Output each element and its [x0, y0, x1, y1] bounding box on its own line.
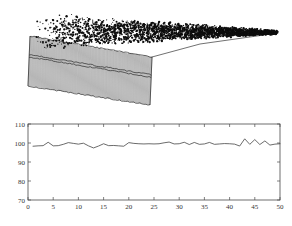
noise-speckle	[126, 26, 127, 27]
noise-speckle	[39, 29, 41, 31]
noise-speckle	[93, 29, 94, 30]
noise-speckle	[97, 32, 98, 33]
line-plot-svg: 05101520253035404550708090100110	[0, 113, 292, 226]
noise-speckle	[143, 32, 144, 33]
noise-speckle	[99, 30, 100, 31]
noise-speckle	[72, 29, 73, 30]
noise-speckle	[92, 31, 93, 32]
noise-speckle	[85, 44, 86, 45]
noise-speckle	[151, 34, 152, 35]
wall-mesh-line	[56, 41, 58, 91]
noise-speckle	[126, 24, 128, 26]
wall-mesh-line	[88, 47, 90, 95]
noise-speckle	[256, 34, 257, 35]
noise-speckle	[248, 32, 249, 33]
wall-mesh-line	[112, 50, 114, 99]
noise-speckle	[63, 21, 65, 23]
noise-speckle	[69, 37, 71, 39]
noise-speckle	[175, 24, 177, 26]
noise-speckle	[221, 28, 222, 29]
wall-mesh-line	[149, 57, 151, 105]
noise-speckle	[269, 34, 271, 36]
noise-speckle	[63, 42, 64, 43]
line-plot-data-series	[33, 139, 280, 148]
noise-speckle	[134, 36, 136, 38]
x-tick-label: 50	[277, 203, 285, 211]
noise-speckle	[62, 34, 64, 36]
noise-speckle	[134, 39, 135, 40]
noise-speckle	[80, 39, 82, 41]
noise-speckle	[206, 33, 208, 35]
wall-mesh-line	[101, 49, 103, 97]
noise-speckle	[162, 38, 163, 39]
noise-speckle	[72, 38, 73, 39]
noise-speckle	[134, 20, 135, 21]
wall-mesh-line	[116, 52, 118, 100]
noise-speckle	[65, 29, 66, 30]
noise-speckle	[205, 37, 207, 39]
wall-mesh-line	[90, 47, 92, 95]
noise-speckle	[150, 24, 152, 26]
noise-speckle	[200, 31, 202, 33]
noise-speckle	[149, 39, 150, 40]
noise-speckle	[84, 21, 86, 23]
noise-speckle	[56, 20, 58, 22]
noise-speckle	[136, 33, 137, 34]
noise-speckle	[119, 33, 120, 34]
noise-speckle	[167, 28, 169, 30]
noise-speckle	[75, 24, 77, 26]
noise-speckle	[240, 35, 241, 36]
noise-speckle	[174, 26, 175, 27]
noise-speckle	[194, 35, 196, 37]
noise-speckle	[171, 32, 172, 33]
wall-mesh-line	[53, 40, 55, 90]
wall-mesh-line	[84, 46, 86, 95]
noise-speckle	[267, 32, 268, 33]
wall-mesh-line	[32, 36, 34, 86]
noise-speckle	[172, 29, 174, 31]
noise-speckle	[163, 34, 164, 35]
noise-speckle	[52, 19, 54, 21]
noise-speckle	[59, 22, 60, 23]
noise-speckle	[275, 30, 277, 32]
noise-speckle	[159, 36, 160, 37]
noise-speckle	[255, 32, 256, 33]
noise-speckle	[122, 43, 123, 44]
noise-speckle	[103, 29, 104, 30]
noise-speckle	[187, 27, 188, 28]
noise-speckle	[146, 27, 147, 28]
noise-speckle	[128, 22, 130, 24]
wall-mesh-line	[131, 53, 133, 102]
wall-mesh-line	[86, 46, 88, 95]
noise-speckle	[182, 36, 184, 38]
noise-speckle	[219, 31, 221, 33]
noise-speckle	[145, 38, 147, 40]
noise-speckle	[107, 24, 108, 25]
noise-speckle	[149, 27, 151, 29]
wall-mesh-line	[108, 50, 110, 99]
noise-speckle	[110, 28, 112, 30]
noise-speckle	[111, 42, 112, 43]
noise-speckle	[78, 21, 80, 23]
noise-speckle	[178, 27, 180, 29]
noise-speckle	[86, 23, 88, 25]
noise-speckle	[199, 25, 200, 26]
noise-speckle	[183, 25, 184, 26]
noise-speckle	[65, 20, 66, 21]
noise-speckle	[93, 36, 95, 38]
noise-speckle	[190, 35, 192, 37]
wall-mesh-line	[81, 46, 83, 95]
noise-speckle	[161, 40, 163, 42]
wall-mesh-line	[130, 53, 132, 102]
wall-mesh-line	[144, 55, 146, 104]
noise-speckle	[55, 33, 56, 34]
noise-speckle	[49, 27, 51, 29]
noise-speckle	[141, 39, 142, 40]
noise-speckle	[116, 36, 117, 37]
noise-speckle	[160, 33, 162, 35]
noise-speckle	[84, 19, 85, 20]
noise-speckle	[127, 21, 128, 22]
noise-speckle	[47, 19, 48, 20]
noise-speckle	[224, 34, 226, 36]
noise-speckle	[127, 29, 128, 30]
